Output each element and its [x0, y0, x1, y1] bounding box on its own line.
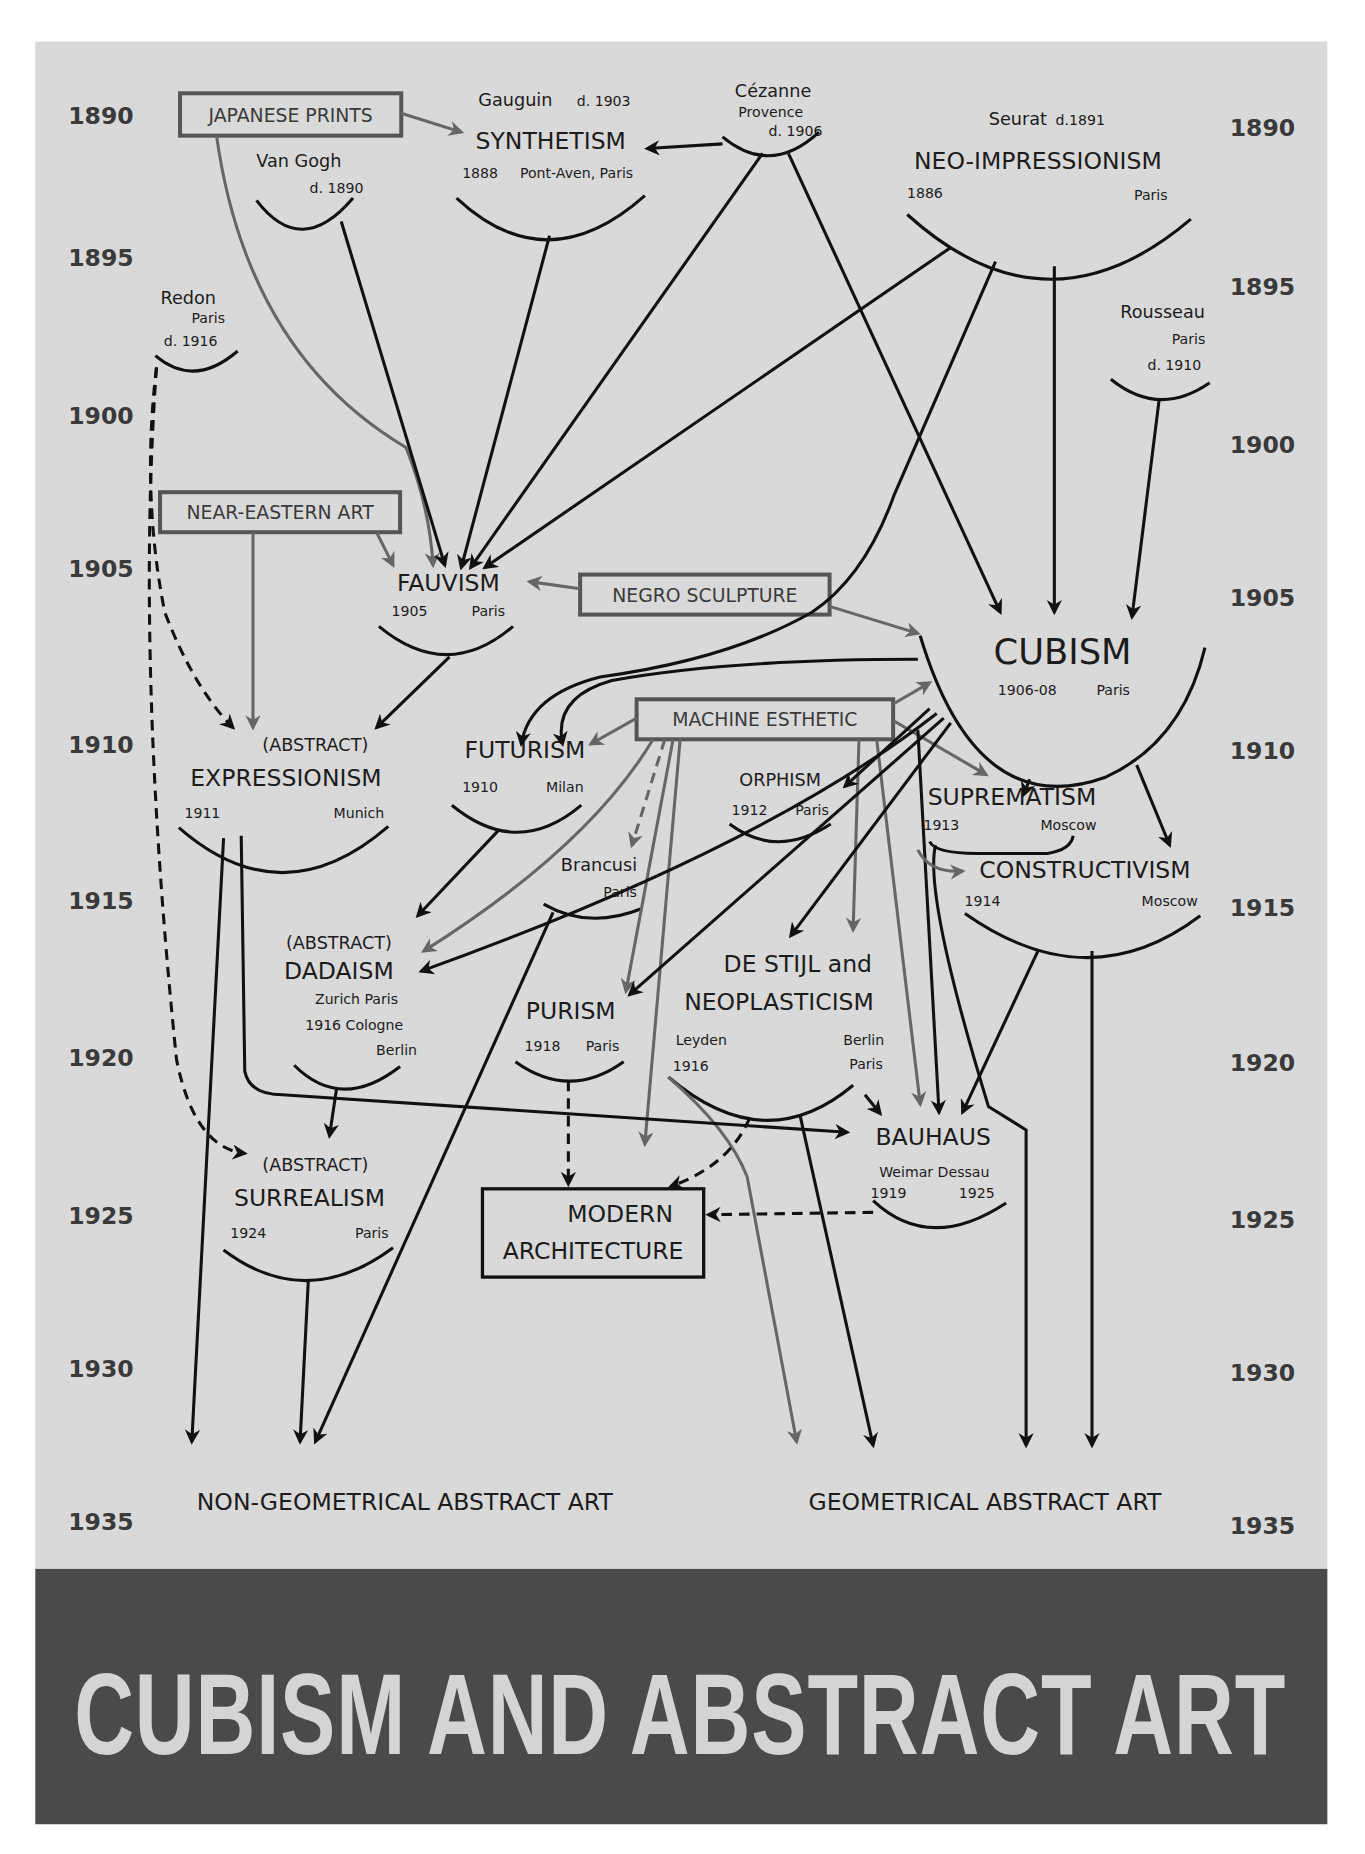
- svg-text:Berlin: Berlin: [376, 1042, 417, 1058]
- svg-text:1916: 1916: [673, 1058, 709, 1074]
- year-label: 1895: [1230, 273, 1295, 301]
- svg-text:EXPRESSIONISM: EXPRESSIONISM: [190, 764, 381, 792]
- svg-text:Moscow: Moscow: [1040, 817, 1096, 833]
- svg-text:Rousseau: Rousseau: [1120, 302, 1205, 322]
- svg-text:Paris: Paris: [191, 310, 225, 326]
- year-label: 1900: [68, 402, 133, 430]
- svg-text:Paris: Paris: [355, 1225, 389, 1241]
- svg-text:d. 1890: d. 1890: [310, 180, 364, 196]
- svg-text:(ABSTRACT): (ABSTRACT): [262, 735, 368, 755]
- svg-text:1918: 1918: [525, 1038, 561, 1054]
- year-label: 1930: [1230, 1359, 1295, 1387]
- year-label: 1910: [1230, 737, 1295, 765]
- year-label: 1925: [1230, 1206, 1295, 1234]
- year-label: 1915: [1230, 894, 1295, 922]
- year-label: 1900: [1230, 431, 1295, 459]
- svg-text:Milan: Milan: [546, 779, 584, 795]
- year-label: 1930: [68, 1355, 133, 1383]
- svg-text:1924: 1924: [230, 1225, 266, 1241]
- svg-text:1925: 1925: [959, 1185, 995, 1201]
- svg-text:CONSTRUCTIVISM: CONSTRUCTIVISM: [979, 856, 1190, 884]
- svg-text:Pont-Aven, Paris: Pont-Aven, Paris: [520, 165, 633, 181]
- svg-text:Paris: Paris: [472, 603, 506, 619]
- svg-text:SUPREMATISM: SUPREMATISM: [928, 783, 1097, 811]
- svg-text:MACHINE ESTHETIC: MACHINE ESTHETIC: [672, 709, 857, 730]
- svg-text:1886: 1886: [907, 185, 943, 201]
- svg-text:NEOPLASTICISM: NEOPLASTICISM: [684, 988, 874, 1016]
- svg-text:Redon: Redon: [161, 288, 217, 308]
- svg-text:Zurich Paris: Zurich Paris: [315, 991, 398, 1007]
- svg-text:1912: 1912: [732, 802, 768, 818]
- svg-text:NEAR-EASTERN ART: NEAR-EASTERN ART: [186, 502, 374, 523]
- svg-text:SYNTHETISM: SYNTHETISM: [476, 127, 626, 155]
- svg-text:Van Gogh: Van Gogh: [256, 151, 341, 171]
- year-label: 1905: [68, 555, 133, 583]
- year-label: 1915: [68, 887, 133, 915]
- svg-text:Munich: Munich: [334, 805, 385, 821]
- year-label: 1925: [68, 1202, 133, 1230]
- year-label: 1890: [1230, 114, 1295, 142]
- svg-text:d.1891: d.1891: [1056, 112, 1105, 128]
- svg-text:Brancusi: Brancusi: [561, 855, 637, 875]
- year-label: 1935: [1230, 1512, 1295, 1540]
- svg-text:PURISM: PURISM: [526, 997, 616, 1025]
- outcome-non-geometrical: NON-GEOMETRICAL ABSTRACT ART: [197, 1488, 614, 1516]
- svg-text:Leyden: Leyden: [676, 1032, 727, 1048]
- svg-text:FAUVISM: FAUVISM: [397, 569, 500, 597]
- year-label: 1920: [1230, 1049, 1295, 1077]
- cover-title: CUBISM AND ABSTRACT ART: [74, 1650, 1286, 1778]
- svg-text:Cézanne: Cézanne: [735, 81, 811, 101]
- svg-text:1910: 1910: [462, 779, 498, 795]
- svg-text:1914: 1914: [965, 893, 1001, 909]
- svg-text:DADAISM: DADAISM: [284, 957, 394, 985]
- influence-diagram: 1890 1895 1900 1905 1910 1915 1920 1925 …: [0, 0, 1365, 1854]
- svg-text:Provence: Provence: [738, 104, 803, 120]
- year-label: 1895: [68, 244, 133, 272]
- svg-text:NEO-IMPRESSIONISM: NEO-IMPRESSIONISM: [914, 147, 1162, 175]
- svg-text:ARCHITECTURE: ARCHITECTURE: [503, 1237, 684, 1265]
- svg-text:1888: 1888: [462, 165, 498, 181]
- year-label: 1905: [1230, 584, 1295, 612]
- svg-text:DE STIJL and: DE STIJL and: [724, 950, 872, 978]
- year-label: 1890: [68, 102, 133, 130]
- svg-text:Moscow: Moscow: [1142, 893, 1198, 909]
- svg-text:1911: 1911: [184, 805, 220, 821]
- svg-text:Paris: Paris: [1172, 331, 1206, 347]
- svg-text:Paris: Paris: [849, 1056, 883, 1072]
- year-label: 1920: [68, 1044, 133, 1072]
- svg-text:SURREALISM: SURREALISM: [234, 1184, 385, 1212]
- artist-seurat: Seurat d.1891: [989, 109, 1105, 129]
- svg-text:Berlin: Berlin: [843, 1032, 884, 1048]
- year-label: 1935: [68, 1508, 133, 1536]
- svg-text:1919: 1919: [870, 1185, 906, 1201]
- svg-text:Weimar Dessau: Weimar Dessau: [879, 1164, 989, 1180]
- svg-text:MODERN: MODERN: [567, 1200, 673, 1228]
- svg-text:FUTURISM: FUTURISM: [464, 736, 585, 764]
- svg-text:BAUHAUS: BAUHAUS: [875, 1123, 990, 1151]
- svg-text:1916 Cologne: 1916 Cologne: [305, 1017, 403, 1033]
- svg-text:JAPANESE PRINTS: JAPANESE PRINTS: [207, 105, 372, 126]
- svg-text:ORPHISM: ORPHISM: [739, 770, 821, 790]
- svg-text:Paris: Paris: [1096, 682, 1130, 698]
- svg-text:1913: 1913: [923, 817, 959, 833]
- cover-poster: 1890 1895 1900 1905 1910 1915 1920 1925 …: [0, 0, 1365, 1854]
- svg-text:Gauguin: Gauguin: [478, 90, 552, 110]
- svg-text:Paris: Paris: [586, 1038, 620, 1054]
- svg-text:1906-08: 1906-08: [998, 682, 1057, 698]
- svg-text:d. 1903: d. 1903: [577, 93, 631, 109]
- svg-text:Paris: Paris: [1134, 187, 1168, 203]
- year-label: 1910: [68, 731, 133, 759]
- svg-text:d. 1916: d. 1916: [164, 333, 218, 349]
- svg-text:NEGRO SCULPTURE: NEGRO SCULPTURE: [612, 585, 797, 606]
- svg-text:Seurat: Seurat: [989, 109, 1047, 129]
- outcome-geometrical: GEOMETRICAL ABSTRACT ART: [808, 1488, 1162, 1516]
- svg-text:d. 1910: d. 1910: [1147, 357, 1201, 373]
- svg-text:(ABSTRACT): (ABSTRACT): [286, 933, 392, 953]
- svg-text:(ABSTRACT): (ABSTRACT): [262, 1155, 368, 1175]
- svg-text:1905: 1905: [392, 603, 428, 619]
- svg-text:CUBISM: CUBISM: [994, 631, 1132, 672]
